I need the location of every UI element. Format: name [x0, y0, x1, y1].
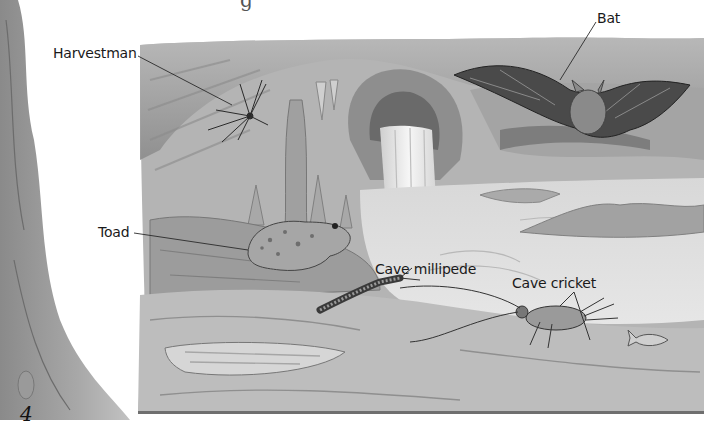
- label-cave-cricket: Cave cricket: [512, 275, 596, 291]
- label-cave-millipede: Cave millipede: [375, 261, 476, 277]
- left-rock-column: [0, 0, 130, 420]
- page-number: 4: [20, 402, 33, 425]
- label-toad: Toad: [98, 224, 129, 240]
- bottom-rule: [138, 411, 704, 414]
- label-harvestman: Harvestman: [53, 45, 137, 61]
- label-bat: Bat: [597, 10, 620, 26]
